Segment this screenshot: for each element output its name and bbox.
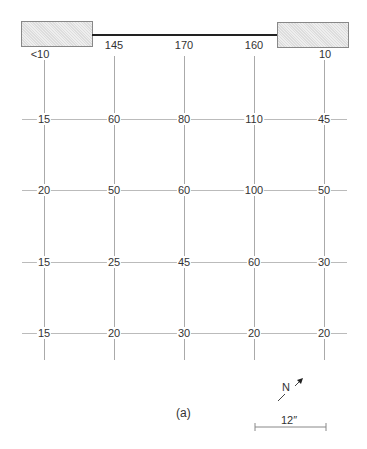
cell-r4-c5: 20 — [317, 327, 331, 339]
cell-r2-c1: 20 — [37, 184, 51, 196]
grid-column-line-1 — [44, 60, 45, 360]
cell-r2-c5: 50 — [317, 184, 331, 196]
cell-r3-c3: 45 — [177, 256, 191, 268]
grid-diagram: <10 145 170 160 10 15 60 80 110 45 20 50… — [0, 0, 367, 449]
cell-r1-c5: 45 — [317, 113, 331, 125]
right-block — [277, 22, 349, 48]
figure-caption: (a) — [176, 406, 191, 420]
cell-r4-c1: 15 — [37, 327, 51, 339]
cell-r1-c1: 15 — [37, 113, 51, 125]
grid-column-line-4 — [254, 56, 255, 360]
north-label: N — [282, 381, 290, 393]
top-label-4: 160 — [245, 39, 263, 51]
cell-r2-c2: 50 — [107, 184, 121, 196]
cell-r3-c2: 25 — [107, 256, 121, 268]
connecting-bar — [92, 34, 277, 36]
cell-r3-c1: 15 — [37, 256, 51, 268]
grid-column-line-2 — [114, 56, 115, 360]
cell-r4-c2: 20 — [107, 327, 121, 339]
grid-column-line-3 — [184, 56, 185, 360]
grid-column-line-5 — [324, 60, 325, 360]
top-label-3: 170 — [175, 39, 193, 51]
cell-r2-c4: 100 — [244, 184, 264, 196]
cell-r3-c5: 30 — [317, 256, 331, 268]
cell-r4-c3: 30 — [177, 327, 191, 339]
top-label-1: <10 — [31, 48, 50, 60]
cell-r2-c3: 60 — [177, 184, 191, 196]
cell-r4-c4: 20 — [247, 327, 261, 339]
north-arrow-icon — [276, 375, 306, 405]
cell-r1-c2: 60 — [107, 113, 121, 125]
cell-r1-c4: 110 — [244, 113, 264, 125]
top-label-2: 145 — [105, 39, 123, 51]
cell-r3-c4: 60 — [247, 256, 261, 268]
scale-bar — [254, 422, 328, 432]
left-block — [21, 21, 93, 47]
top-label-5: 10 — [319, 48, 331, 60]
cell-r1-c3: 80 — [177, 113, 191, 125]
